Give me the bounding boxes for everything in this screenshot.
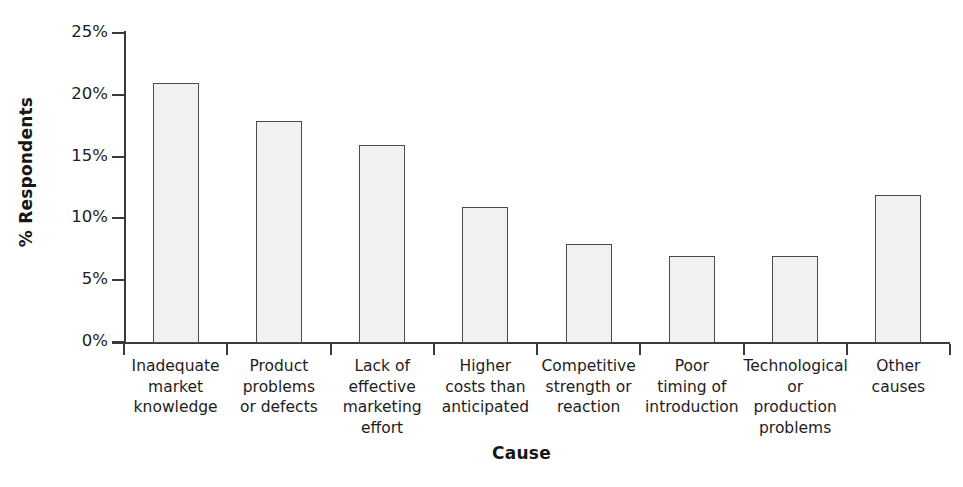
x-axis-label-line: timing of: [640, 377, 743, 398]
x-axis-label-line: Competitive: [537, 356, 640, 377]
bar-slot: [434, 33, 537, 343]
x-axis-tick: [123, 344, 125, 355]
y-axis-tick-label: 5%: [46, 271, 108, 288]
x-axis-label-line: Lack of: [331, 356, 434, 377]
bar[interactable]: [153, 83, 199, 343]
x-axis-label: Othercauses: [847, 356, 950, 397]
bar[interactable]: [359, 145, 405, 343]
x-axis-label: Lack ofeffectivemarketingeffort: [331, 356, 434, 438]
y-axis-tick: [112, 279, 124, 281]
x-axis-label: Highercosts thananticipated: [434, 356, 537, 418]
x-axis-tick: [949, 344, 951, 355]
y-axis-title: % Respondents: [8, 0, 44, 343]
y-axis-tick-label: 15%: [46, 148, 108, 165]
bar[interactable]: [669, 256, 715, 343]
x-axis-label-line: strength or: [537, 377, 640, 398]
x-axis-label: Technologicalor productionproblems: [744, 356, 847, 438]
x-axis-label-line: anticipated: [434, 397, 537, 418]
x-axis-label-line: or defects: [227, 397, 330, 418]
x-axis-label-line: problems: [744, 418, 847, 439]
bar-slot: [640, 33, 743, 343]
x-axis-label: Inadequatemarketknowledge: [124, 356, 227, 418]
x-axis-label-line: Other: [847, 356, 950, 377]
bar-slot: [124, 33, 227, 343]
x-axis-label-line: costs than: [434, 377, 537, 398]
bar-slot: [744, 33, 847, 343]
x-axis-label-line: Poor: [640, 356, 743, 377]
x-axis-label-line: effort: [331, 418, 434, 439]
bar-slot: [331, 33, 434, 343]
x-axis-tick: [330, 344, 332, 355]
x-axis-tick: [226, 344, 228, 355]
x-axis-label-line: Technological: [744, 356, 847, 377]
x-axis-tick: [846, 344, 848, 355]
x-axis-tick: [536, 344, 538, 355]
x-axis-label: Poortiming ofintroduction: [640, 356, 743, 418]
bar-slot: [537, 33, 640, 343]
y-axis-tick: [112, 341, 124, 343]
x-axis-label-line: Product: [227, 356, 330, 377]
bar[interactable]: [566, 244, 612, 343]
x-axis-label-line: effective: [331, 377, 434, 398]
x-axis-label: Competitivestrength orreaction: [537, 356, 640, 418]
bar-slot: [227, 33, 330, 343]
y-axis-tick: [112, 94, 124, 96]
bar[interactable]: [462, 207, 508, 343]
y-axis-tick-label: 25%: [46, 24, 108, 41]
x-axis-label-line: or production: [744, 377, 847, 418]
plot-area: [124, 33, 950, 343]
x-axis-label: Productproblemsor defects: [227, 356, 330, 418]
x-axis-tick: [743, 344, 745, 355]
bar[interactable]: [875, 195, 921, 343]
y-axis-tick: [112, 32, 124, 34]
x-axis-tick: [639, 344, 641, 355]
y-axis-tick-label: 10%: [46, 209, 108, 226]
x-axis-tick: [433, 344, 435, 355]
y-axis-tick: [112, 217, 124, 219]
bar[interactable]: [256, 121, 302, 343]
bar[interactable]: [772, 256, 818, 343]
x-axis-label-line: Higher: [434, 356, 537, 377]
x-axis-label-line: marketing: [331, 397, 434, 418]
x-axis-label-line: causes: [847, 377, 950, 398]
y-axis-title-text: % Respondents: [16, 96, 36, 246]
x-axis-label-line: knowledge: [124, 397, 227, 418]
y-axis-tick-label: 0%: [46, 333, 108, 350]
x-axis-title: Cause: [0, 443, 963, 463]
x-axis-label-line: Inadequate: [124, 356, 227, 377]
bar-slot: [847, 33, 950, 343]
x-axis-label-line: reaction: [537, 397, 640, 418]
x-axis-label-line: problems: [227, 377, 330, 398]
x-axis-label-line: market: [124, 377, 227, 398]
y-axis-tick-label: 20%: [46, 86, 108, 103]
y-axis-tick: [112, 156, 124, 158]
x-axis-label-line: introduction: [640, 397, 743, 418]
bar-chart: % Respondents 0%5%10%15%20%25% Inadequat…: [0, 0, 963, 487]
